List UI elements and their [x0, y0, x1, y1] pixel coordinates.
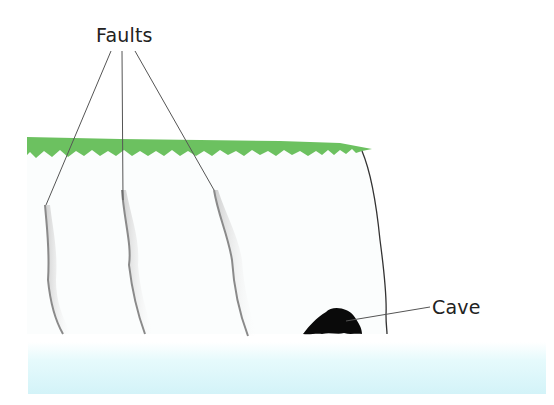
sea: [28, 342, 546, 394]
cave-label: Cave: [432, 296, 481, 318]
faults-label: Faults: [96, 24, 153, 46]
cliff-diagram: [0, 0, 554, 405]
